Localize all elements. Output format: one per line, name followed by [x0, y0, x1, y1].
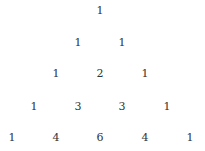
entry: 1: [182, 131, 198, 145]
entry: 1: [137, 67, 153, 81]
entry: 3: [70, 100, 86, 114]
entry: 1: [4, 131, 20, 145]
entry: 1: [114, 36, 130, 50]
entry: 4: [137, 131, 153, 145]
entry: 6: [92, 131, 108, 145]
entry: 1: [92, 4, 108, 18]
entry: 2: [92, 67, 108, 81]
entry: 1: [159, 100, 175, 114]
entry: 1: [48, 67, 64, 81]
entry: 3: [114, 100, 130, 114]
entry: 1: [70, 36, 86, 50]
entry: 1: [26, 100, 42, 114]
entry: 4: [48, 131, 64, 145]
